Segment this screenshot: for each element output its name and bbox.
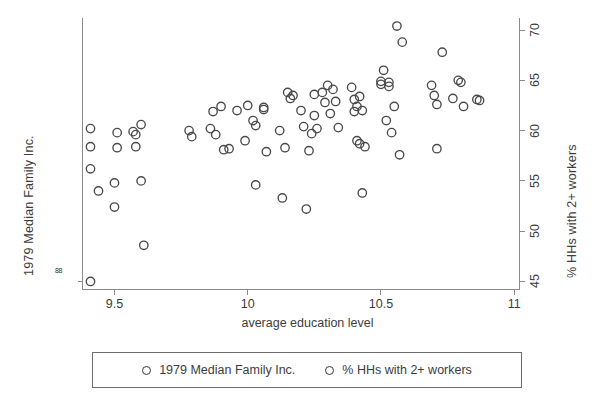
data-point [326,109,334,117]
data-point [310,90,318,98]
data-point [137,120,145,128]
data-point [110,179,118,187]
y-axis-left-tick-label: 88 [55,268,62,273]
data-point [390,102,398,110]
data-point [305,147,313,155]
legend-label: % HHs with 2+ workers [342,363,472,377]
legend-marker-open-circle [142,366,151,375]
data-point [350,107,358,115]
data-point [321,98,329,106]
legend-label: 1979 Median Family Inc. [159,363,295,377]
x-axis-tick-label: 10.5 [369,297,393,311]
data-point [212,130,220,138]
data-point [241,136,249,144]
data-point [86,124,94,132]
data-point [427,81,435,89]
data-point [94,187,102,195]
x-axis-title: average education level [0,316,615,330]
data-point [457,78,465,86]
y-axis-left-title: 1979 Median Family Inc. [22,36,36,276]
data-point [233,106,241,114]
data-point [113,128,121,136]
x-axis-tick-label: 10 [241,297,255,311]
y-axis-right-tick-label: 45 [528,275,542,289]
data-point [313,124,321,132]
chart-legend: 1979 Median Family Inc. % HHs with 2+ wo… [92,352,522,388]
data-point [137,177,145,185]
scatter-chart-figure: 1979 Median Family Inc. 88 % HHs with 2+… [0,0,615,406]
data-point [110,203,118,211]
data-point [86,143,94,151]
legend-item-pct-hhs-2plus-workers: % HHs with 2+ workers [325,363,472,377]
data-point [249,116,257,124]
y-axis-right-tick-label: 55 [528,174,542,188]
data-point [132,143,140,151]
x-axis-tick-label: 9.5 [106,297,123,311]
legend-marker-open-circle [325,366,334,375]
data-point [244,101,252,109]
data-point [302,205,310,213]
legend-item-1979-median-family-inc: 1979 Median Family Inc. [142,363,295,377]
data-points-layer [86,22,483,286]
data-point [382,116,390,124]
data-point [262,148,270,156]
data-point [278,194,286,202]
data-point [307,129,315,137]
data-point [449,94,457,102]
data-point [430,91,438,99]
data-point [275,126,283,134]
data-point [113,144,121,152]
plot-area [0,0,615,406]
data-point [299,122,307,130]
data-point [281,144,289,152]
data-point [297,106,305,114]
y-axis-right-tick-label: 60 [528,124,542,138]
data-point [358,189,366,197]
data-point [459,102,467,110]
data-point [395,151,403,159]
data-point [225,145,233,153]
data-point [252,181,260,189]
y-axis-right-title: % HHs with 2+ workers [565,48,579,278]
y-axis-right-tick-label: 70 [528,23,542,37]
data-point [331,97,339,105]
data-point [209,107,217,115]
data-point [398,38,406,46]
data-point [347,83,355,91]
data-point [252,121,260,129]
data-point [334,123,342,131]
data-point [310,111,318,119]
data-point [433,145,441,153]
y-axis-right-ticks [78,30,525,281]
data-point [86,165,94,173]
data-point [454,76,462,84]
data-point [433,100,441,108]
data-point [438,48,446,56]
y-axis-right-tick-label: 50 [528,224,542,238]
x-axis-tick-label: 11 [508,297,521,311]
data-point [140,241,148,249]
x-axis-ticks [114,290,514,295]
data-point [217,102,225,110]
data-point [379,66,387,74]
y-axis-right-tick-label: 65 [528,73,542,87]
data-point [86,277,94,285]
data-point [387,128,395,136]
data-point [393,22,401,30]
